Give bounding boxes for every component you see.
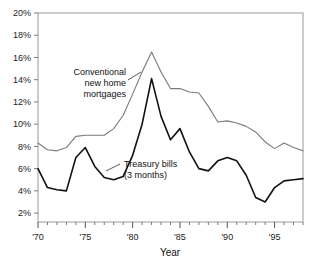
y-tick-label: 12% xyxy=(13,97,31,107)
y-tick-label: 8% xyxy=(18,142,31,152)
x-tick-label: '75 xyxy=(79,232,91,242)
y-tick-label: 4% xyxy=(18,186,31,196)
y-tick-label: 6% xyxy=(18,164,31,174)
mortgage-label-line-2: new home xyxy=(84,78,126,88)
mortgage-label-line-3: mortgages xyxy=(83,89,126,99)
y-tick-label: 20% xyxy=(13,8,31,18)
tbill-label-line-1: Treasury bills xyxy=(124,159,178,169)
tbill-label-line-2: (3 months) xyxy=(124,170,167,180)
y-tick-label: 14% xyxy=(13,75,31,85)
mortgage-label-line-1: Conventional xyxy=(73,67,126,77)
x-tick-label: '70 xyxy=(32,232,44,242)
x-tick-label: '80 xyxy=(127,232,139,242)
x-tick-label: '85 xyxy=(174,232,186,242)
interest-rate-line-chart: 2%4%6%8%10%12%14%16%18%20% '70'75'80'85'… xyxy=(0,0,316,272)
x-axis-title: Year xyxy=(160,247,181,258)
y-tick-label: 18% xyxy=(13,30,31,40)
y-tick-label: 16% xyxy=(13,53,31,63)
y-tick-label: 2% xyxy=(18,208,31,218)
x-tick-label: '90 xyxy=(221,232,233,242)
y-tick-label: 10% xyxy=(13,119,31,129)
x-tick-label: '95 xyxy=(269,232,281,242)
chart-container: 2%4%6%8%10%12%14%16%18%20% '70'75'80'85'… xyxy=(0,0,316,272)
